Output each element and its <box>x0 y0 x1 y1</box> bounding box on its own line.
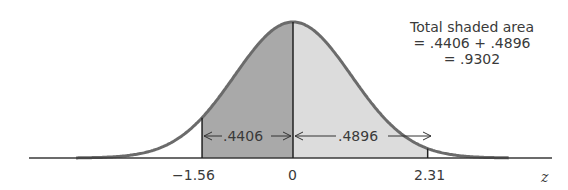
tick-label-neg-1-56: −1.56 <box>172 168 215 182</box>
tick-label-2-31: 2.31 <box>414 168 445 182</box>
annotation-line-3: = .9302 <box>372 51 568 67</box>
tick-label-0: 0 <box>288 168 297 182</box>
annotation-line-1: Total shaded area <box>372 19 568 35</box>
area-label-left: .4406 <box>223 129 263 143</box>
total-area-annotation: Total shaded area = .4406 + .4896 = .930… <box>372 19 568 67</box>
area-label-right: .4896 <box>338 129 378 143</box>
axis-label-z: z <box>541 170 548 184</box>
annotation-line-2: = .4406 + .4896 <box>372 35 568 51</box>
